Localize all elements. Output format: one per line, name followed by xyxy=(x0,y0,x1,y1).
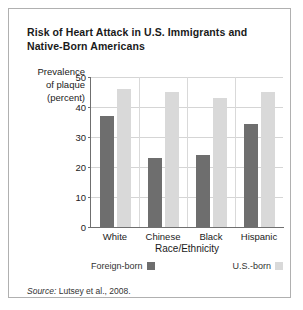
legend-swatch xyxy=(275,262,283,270)
y-tick-label: 40 xyxy=(75,102,86,113)
bar-white-u-s-born[interactable] xyxy=(117,89,131,227)
y-tick-label: 10 xyxy=(75,192,86,203)
y-tick-label: 50 xyxy=(75,72,86,83)
chart-legend: Foreign-bornU.S.-born xyxy=(91,261,283,271)
source-label: Source: xyxy=(27,286,56,296)
source-note: Source: Lutsey et al., 2008. xyxy=(27,286,131,296)
legend-item-foreign-born[interactable]: Foreign-born xyxy=(91,261,155,271)
legend-label: Foreign-born xyxy=(91,261,143,271)
legend-label: U.S.-born xyxy=(232,261,271,271)
bar-black-u-s-born[interactable] xyxy=(213,98,227,227)
x-tick-label-white: White xyxy=(91,231,139,242)
x-tick-label-chinese: Chinese xyxy=(139,231,187,242)
figure-panel: Risk of Heart Attack in U.S. Immigrants … xyxy=(8,8,291,298)
x-tick-label-hispanic: Hispanic xyxy=(235,231,283,242)
bar-group: Chinese xyxy=(139,77,187,227)
bar-hispanic-foreign-born[interactable] xyxy=(244,124,258,228)
x-tick-label-black: Black xyxy=(187,231,235,242)
y-tick-label: 0 xyxy=(81,222,86,233)
bar-chinese-u-s-born[interactable] xyxy=(165,92,179,227)
plot-area: 01020304050WhiteChineseBlackHispanic xyxy=(91,77,283,227)
x-axis-line xyxy=(90,227,284,228)
bar-hispanic-u-s-born[interactable] xyxy=(261,92,275,227)
chart-title: Risk of Heart Attack in U.S. Immigrants … xyxy=(27,25,277,53)
x-axis-title: Race/Ethnicity xyxy=(91,243,283,254)
bar-group: Hispanic xyxy=(235,77,283,227)
y-tick-label: 20 xyxy=(75,162,86,173)
bar-black-foreign-born[interactable] xyxy=(196,155,210,227)
y-tick-label: 30 xyxy=(75,132,86,143)
bar-chinese-foreign-born[interactable] xyxy=(148,158,162,227)
legend-item-u-s-born[interactable]: U.S.-born xyxy=(232,261,283,271)
legend-swatch xyxy=(147,262,155,270)
bar-white-foreign-born[interactable] xyxy=(100,116,114,227)
source-text: Lutsey et al., 2008. xyxy=(59,286,131,296)
bar-group: White xyxy=(91,77,139,227)
y-tick-mark xyxy=(88,227,91,228)
bar-group: Black xyxy=(187,77,235,227)
